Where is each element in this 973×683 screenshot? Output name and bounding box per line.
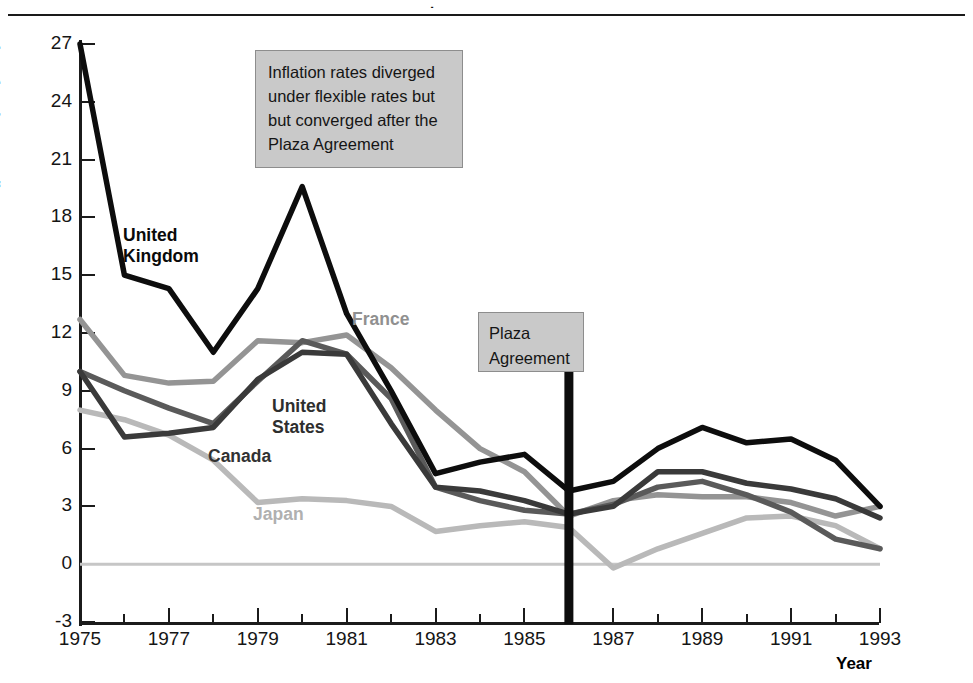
series-label-united-kingdom: United Kingdom <box>123 225 199 267</box>
series-line-united-states <box>80 352 880 518</box>
series-line-united-kingdom <box>80 44 880 506</box>
series-label-france: France <box>352 309 409 330</box>
figure-container: . Inflation rate (percent per year) Year… <box>0 0 973 683</box>
annotation-plaza-agreement: Plaza Agreement <box>478 312 584 372</box>
annotation-divergence-note: Inflation rates diverged under flexible … <box>255 50 463 168</box>
series-paths <box>80 44 880 568</box>
series-label-canada: Canada <box>208 446 271 467</box>
series-label-united-states: United States <box>272 396 326 438</box>
series-label-japan: Japan <box>253 504 304 525</box>
